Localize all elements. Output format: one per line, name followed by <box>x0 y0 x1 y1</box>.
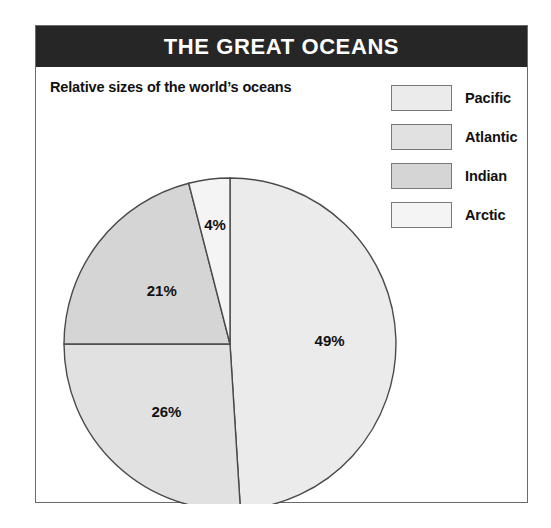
legend-item-pacific: Pacific <box>391 78 521 117</box>
chart-figure: THE GREAT OCEANS Relative sizes of the w… <box>35 25 528 503</box>
chart-header-bar: THE GREAT OCEANS <box>36 26 527 67</box>
pie-value-label-pacific: 49% <box>315 332 345 349</box>
page-title: THE GREAT OCEANS <box>164 34 399 60</box>
pie-slices-group <box>64 178 396 504</box>
pie-chart-area: 49%26%21%4% <box>36 126 527 504</box>
chart-subtitle: Relative sizes of the world’s oceans <box>50 79 291 95</box>
pie-value-label-atlantic: 26% <box>151 403 181 420</box>
pie-chart-svg: 49%26%21%4% <box>36 126 527 504</box>
pie-value-label-arctic: 4% <box>204 216 226 233</box>
pie-value-label-indian: 21% <box>147 282 177 299</box>
legend-swatch-pacific <box>391 85 452 111</box>
legend-label-pacific: Pacific <box>465 90 511 106</box>
pie-slice-pacific <box>230 178 396 504</box>
pie-slice-atlantic <box>64 344 240 504</box>
